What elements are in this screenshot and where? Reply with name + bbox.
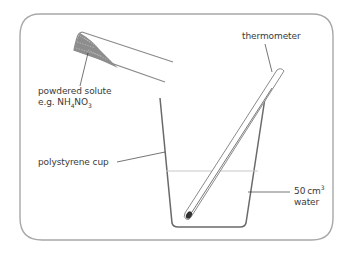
solute-label: powdered solute e.g. NH4NO3	[38, 86, 111, 108]
powder-icon	[74, 33, 118, 68]
solute-leader-line	[80, 53, 88, 86]
water-word: water	[294, 197, 325, 208]
solute-formula-part: NO	[74, 97, 88, 107]
water-label: 50cm3 water	[294, 186, 325, 208]
diagram-canvas	[0, 0, 357, 253]
solute-formula-part: e.g. NH	[38, 97, 71, 107]
water-volume-unit: cm	[307, 186, 321, 196]
solute-subscript: 3	[88, 102, 92, 109]
thermometer-label: thermometer	[242, 31, 301, 42]
cup-label: polystyrene cup	[38, 157, 109, 168]
thermometer-icon	[184, 69, 284, 220]
water-volume-number: 50	[294, 186, 305, 196]
water-volume: 50cm3	[294, 186, 325, 197]
diagram-frame-border	[20, 14, 333, 240]
thermometer-leader-line	[265, 44, 272, 72]
solute-label-line1: powdered solute	[38, 86, 111, 97]
solute-label-line2: e.g. NH4NO3	[38, 97, 111, 108]
water-volume-superscript: 3	[321, 184, 325, 191]
cup-leader-line	[117, 152, 165, 162]
